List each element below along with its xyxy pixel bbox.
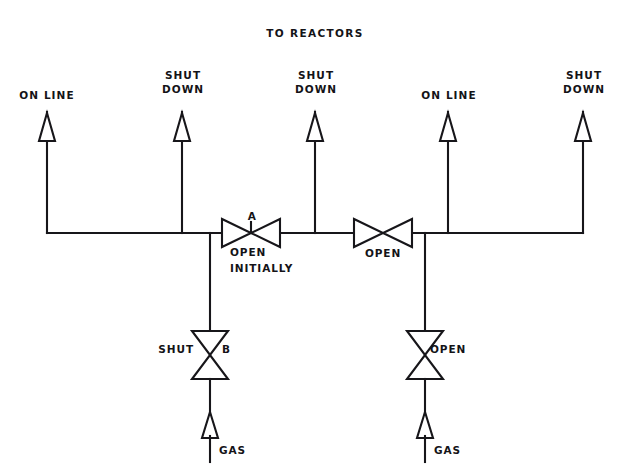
valve-header-2-left-triangle: [354, 219, 383, 247]
valve-a-right-triangle: [251, 219, 280, 247]
valve-right-status: OPEN: [430, 343, 466, 356]
valve-b-status: SHUT: [158, 343, 194, 356]
riser-label-3-line2: DOWN: [295, 83, 337, 96]
riser-arrowhead-5: [575, 113, 591, 141]
valve-a-status-line2: INITIALLY: [230, 262, 293, 275]
riser-label-1: ON LINE: [19, 89, 74, 102]
valve-a-status-line1: OPEN: [230, 246, 266, 259]
riser-label-3-line1: SHUT: [298, 69, 334, 82]
gas-inlet-label-right: GAS: [434, 444, 461, 457]
diagram-canvas: TO REACTORS ON LINE SHUT DOWN SHUT DOWN …: [0, 0, 622, 475]
valve-a-left-triangle: [222, 219, 251, 247]
riser-label-2-line2: DOWN: [162, 83, 204, 96]
riser-label-5-line1: SHUT: [566, 69, 602, 82]
gas-inlet-label-left: GAS: [219, 444, 246, 457]
diagram-title: TO REACTORS: [266, 27, 363, 40]
valve-header-2-right-triangle: [383, 219, 412, 247]
riser-arrowhead-2: [174, 113, 190, 141]
riser-arrowhead-4: [440, 113, 456, 141]
riser-label-4: ON LINE: [421, 89, 476, 102]
valve-a-letter: A: [248, 210, 257, 223]
gas-inlet-arrowhead-left: [202, 412, 218, 438]
gas-inlet-arrowhead-right: [417, 412, 433, 438]
valve-b-letter: B: [222, 343, 231, 356]
riser-label-5-line2: DOWN: [563, 83, 605, 96]
valve-header-2-status: OPEN: [365, 247, 401, 260]
riser-label-2-line1: SHUT: [165, 69, 201, 82]
riser-arrowhead-1: [39, 113, 55, 141]
valve-right-lower-triangle: [407, 355, 443, 379]
riser-arrowhead-3: [307, 113, 323, 141]
valve-b-lower-triangle: [192, 355, 228, 379]
